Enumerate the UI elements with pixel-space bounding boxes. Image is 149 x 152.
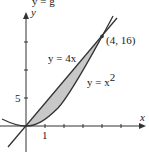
x-axis-label: x [139, 111, 145, 123]
parabola-y-x2 [2, 16, 113, 126]
area-between-curves-chart: y = g y x (4, 16) y = 4x y = x2 1 5 [0, 0, 149, 152]
x-tick-label-1: 1 [42, 129, 48, 141]
parabola-label: y = x2 [87, 71, 115, 88]
y-axis-label: y [30, 6, 36, 18]
y-axis-arrow-icon [23, 12, 29, 19]
parabola-label-base: y = x [87, 76, 110, 88]
line-label: y = 4x [48, 52, 77, 64]
y-tick-label-5: 5 [15, 92, 21, 104]
x-axis-arrow-icon [139, 123, 146, 129]
intersection-point [100, 35, 104, 39]
parabola-label-exponent: 2 [110, 71, 116, 83]
point-label: (4, 16) [106, 34, 136, 47]
